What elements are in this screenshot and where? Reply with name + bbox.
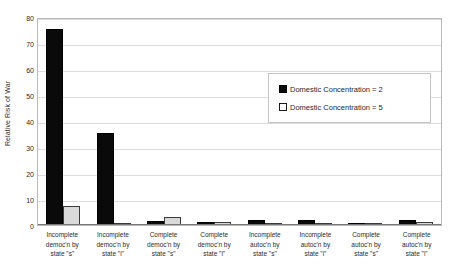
- x-axis-label: Incompletedemoc'n bystate "s": [37, 230, 88, 276]
- x-axis-label-line: Incomplete: [89, 230, 138, 240]
- x-axis-label-line: state "i": [392, 249, 441, 259]
- x-axis-label-line: state "s": [241, 249, 290, 259]
- x-axis-label: Completeautoc'n bystate "s": [341, 230, 392, 276]
- y-axis-tick-50: 50: [14, 93, 34, 100]
- legend-item: Domestic Concentration = 5: [279, 103, 420, 112]
- x-axis-label-line: democ'n by: [139, 240, 188, 250]
- legend-swatch-icon: [279, 103, 287, 111]
- x-axis-label-line: autoc'n by: [342, 240, 391, 250]
- bar-group: [38, 19, 88, 225]
- y-axis-tick-80: 80: [14, 15, 34, 22]
- legend-item: Domestic Concentration = 2: [279, 85, 420, 94]
- x-axis-label: Completeautoc'n bystate "i": [391, 230, 442, 276]
- y-axis-tick-70: 70: [14, 41, 34, 48]
- chart-legend: Domestic Concentration = 2Domestic Conce…: [268, 73, 431, 123]
- legend-item-label: Domestic Concentration = 5: [290, 103, 383, 112]
- y-axis-tick-0: 0: [14, 223, 34, 230]
- legend-item-label: Domestic Concentration = 2: [290, 85, 383, 94]
- legend-swatch-icon: [279, 85, 287, 93]
- x-axis-label-line: Complete: [139, 230, 188, 240]
- bar-group: [139, 19, 189, 225]
- bar: [97, 133, 114, 225]
- y-axis-tick-40: 40: [14, 119, 34, 126]
- y-axis-tick-30: 30: [14, 145, 34, 152]
- x-axis-label-line: autoc'n by: [241, 240, 290, 250]
- x-axis-label: Incompleteautoc'n bystate "s": [240, 230, 291, 276]
- bar: [46, 29, 63, 225]
- x-axis-label-line: state "i": [291, 249, 340, 259]
- bar-group: [189, 19, 239, 225]
- y-axis-tick-20: 20: [14, 171, 34, 178]
- x-axis-label-line: state "s": [139, 249, 188, 259]
- x-axis-label-line: Incomplete: [38, 230, 87, 240]
- x-axis-label-line: autoc'n by: [291, 240, 340, 250]
- x-axis-label: Incompleteautoc'n bystate "i": [290, 230, 341, 276]
- x-axis-label-line: democ'n by: [190, 240, 239, 250]
- bar-chart: Relative Risk of War 01020304050607080 D…: [0, 0, 452, 280]
- x-axis-label-line: democ'n by: [38, 240, 87, 250]
- x-axis-label: Completedemoc'n bystate "i": [189, 230, 240, 276]
- y-axis-tick-labels: 01020304050607080: [14, 18, 34, 226]
- bar: [63, 206, 80, 226]
- x-axis-label-line: Incomplete: [291, 230, 340, 240]
- x-axis-label-line: state "i": [89, 249, 138, 259]
- y-axis-tick-10: 10: [14, 197, 34, 204]
- bar-group: [88, 19, 138, 225]
- y-axis-title-text: Relative Risk of War: [5, 80, 12, 145]
- x-axis-label-line: state "i": [190, 249, 239, 259]
- x-axis-label-line: autoc'n by: [392, 240, 441, 250]
- x-axis-category-labels: Incompletedemoc'n bystate "s"Incompleted…: [37, 230, 442, 276]
- x-axis-label-line: Complete: [190, 230, 239, 240]
- x-axis-label-line: Complete: [342, 230, 391, 240]
- x-axis-label-line: Incomplete: [241, 230, 290, 240]
- y-axis-tick-60: 60: [14, 67, 34, 74]
- x-axis-label: Completedemoc'n bystate "s": [138, 230, 189, 276]
- x-axis-label-line: state "s": [38, 249, 87, 259]
- x-axis-label-line: state "s": [342, 249, 391, 259]
- x-axis-baseline: [38, 224, 441, 225]
- x-axis-label-line: democ'n by: [89, 240, 138, 250]
- x-axis-label-line: Complete: [392, 230, 441, 240]
- x-axis-label: Incompletedemoc'n bystate "i": [88, 230, 139, 276]
